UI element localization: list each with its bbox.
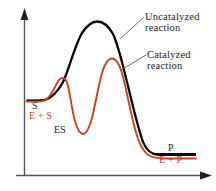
legend-label-uncatalyzed-line2: reaction bbox=[145, 22, 200, 33]
legend-label-uncatalyzed: Uncatalyzed reaction bbox=[145, 11, 200, 34]
legend-label-catalyzed-line2: reaction bbox=[147, 60, 191, 71]
state-label-enzyme-substrate-complex: ES bbox=[54, 125, 66, 136]
legend-label-uncatalyzed-line1: Uncatalyzed bbox=[145, 11, 200, 22]
reaction-coordinate-axis-arrowhead bbox=[200, 171, 212, 179]
leader-line-uncatalyzed bbox=[120, 17, 144, 39]
legend-label-catalyzed-line1: Catalyzed bbox=[147, 49, 191, 60]
energy-axis-arrowhead bbox=[21, 8, 29, 20]
uncatalyzed-curve-group bbox=[27, 22, 197, 155]
leader-line-catalyzed bbox=[121, 55, 146, 70]
state-label-enzyme-substrate-free: E + S bbox=[29, 111, 52, 122]
state-label-enzyme-product: E + P bbox=[159, 155, 182, 166]
leader-line-group bbox=[120, 17, 146, 70]
state-label-product: P bbox=[168, 143, 174, 154]
legend-label-catalyzed: Catalyzed reaction bbox=[147, 49, 191, 72]
energy-diagram-figure: Uncatalyzed reaction Catalyzed reaction … bbox=[0, 0, 216, 191]
